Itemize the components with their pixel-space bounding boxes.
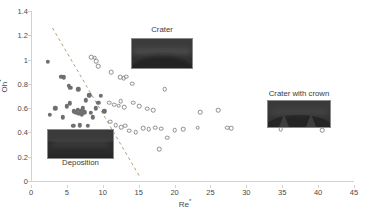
data-point — [133, 130, 138, 135]
x-axis-title: Re* — [0, 198, 370, 209]
x-tick-mark — [210, 185, 211, 188]
x-tick-label: 10 — [99, 188, 107, 197]
data-point — [68, 101, 72, 105]
y-axis-title: Oh* — [0, 79, 9, 92]
x-tick-label: 15 — [134, 188, 142, 197]
inset-deposition-photo — [47, 129, 114, 159]
data-point — [123, 123, 128, 128]
data-point — [78, 123, 82, 127]
scatter-chart-figure: 00.20.40.60.811.21.4 051015202530354045 … — [0, 0, 370, 216]
data-point — [198, 110, 203, 115]
inset-deposition: Deposition — [47, 129, 114, 159]
x-tick-label: 45 — [350, 188, 358, 197]
inset-crater-with-crown-caption: Crater with crown — [267, 89, 331, 98]
x-tick-label: 5 — [65, 188, 69, 197]
x-tick-label: 40 — [314, 188, 322, 197]
x-tick-mark — [67, 185, 68, 188]
data-point — [76, 87, 80, 91]
data-point — [47, 113, 51, 117]
data-point — [229, 126, 234, 131]
inset-deposition-caption: Deposition — [47, 158, 114, 167]
y-tick-label: 0.4 — [18, 128, 28, 137]
y-tick-label: 1.4 — [18, 7, 28, 16]
data-point — [107, 100, 112, 105]
x-axis-tick-labels: 051015202530354045 — [31, 185, 354, 197]
y-tick-label: 1.2 — [18, 31, 28, 40]
data-point — [86, 124, 90, 128]
axis-title-superscript: * — [0, 79, 4, 81]
x-tick-mark — [103, 185, 104, 188]
y-tick-label: 0.6 — [18, 104, 28, 113]
data-point — [109, 70, 114, 75]
x-tick-mark — [139, 185, 140, 188]
data-point — [91, 115, 95, 119]
data-point — [130, 82, 135, 87]
data-point — [62, 75, 66, 79]
x-tick-mark — [318, 185, 319, 188]
data-point — [124, 74, 129, 79]
data-point — [165, 136, 170, 141]
data-point — [102, 109, 106, 113]
inset-crater-photo — [131, 38, 193, 69]
x-tick-label: 20 — [170, 188, 178, 197]
data-point — [118, 99, 123, 104]
data-point — [83, 98, 87, 102]
data-point — [141, 126, 146, 131]
axis-title-superscript: * — [189, 198, 191, 204]
data-point — [53, 106, 57, 110]
data-point — [93, 106, 97, 110]
data-point — [216, 108, 221, 113]
y-tick-mark — [28, 181, 31, 182]
data-point — [162, 87, 167, 92]
x-tick-label: 25 — [206, 188, 214, 197]
data-point — [71, 124, 75, 128]
data-point — [157, 147, 162, 152]
data-point — [127, 128, 132, 133]
y-tick-label: 0.2 — [18, 152, 28, 161]
inset-crater-caption: Crater — [131, 25, 193, 34]
x-tick-mark — [246, 185, 247, 188]
data-point — [116, 103, 121, 108]
x-tick-mark — [354, 185, 355, 188]
x-tick-mark — [31, 185, 32, 188]
data-point — [60, 115, 64, 119]
x-axis-line — [31, 181, 354, 182]
data-point — [320, 128, 325, 133]
data-point — [131, 100, 136, 105]
x-tick-label: 0 — [29, 188, 33, 197]
x-tick-label: 30 — [242, 188, 250, 197]
data-point — [159, 126, 164, 131]
data-point — [195, 125, 200, 130]
data-point — [181, 127, 186, 132]
data-point — [151, 108, 156, 113]
x-tick-mark — [282, 185, 283, 188]
data-point — [172, 128, 177, 133]
data-point — [87, 93, 91, 97]
data-point — [137, 104, 142, 109]
data-point — [98, 94, 102, 98]
data-point — [96, 64, 101, 69]
inset-crater-with-crown: Crater with crown — [267, 89, 331, 128]
data-point — [108, 119, 113, 124]
y-axis-tick-labels: 00.20.40.60.811.21.4 — [0, 11, 28, 181]
data-point — [96, 100, 100, 104]
data-point — [145, 106, 150, 111]
y-tick-label: 0.8 — [18, 79, 28, 88]
x-tick-label: 35 — [278, 188, 286, 197]
data-point — [82, 110, 86, 114]
data-point — [45, 60, 49, 64]
data-point — [146, 127, 151, 132]
data-point — [153, 125, 158, 130]
data-point — [113, 123, 118, 128]
data-point — [68, 85, 72, 89]
inset-crater-with-crown-photo — [267, 100, 331, 128]
inset-crater: Crater — [131, 25, 193, 69]
x-tick-mark — [175, 185, 176, 188]
data-point — [122, 105, 127, 110]
